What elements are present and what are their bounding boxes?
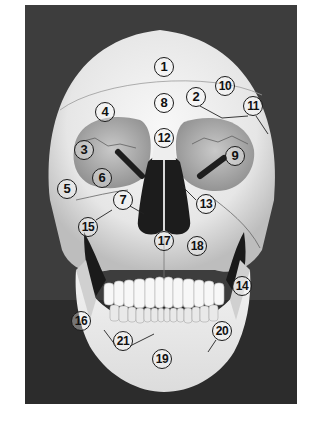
label-2: 2 (186, 87, 206, 107)
label-4: 4 (95, 102, 115, 122)
label-14: 14 (232, 276, 252, 296)
label-15: 15 (78, 217, 98, 237)
label-3: 3 (74, 140, 94, 160)
label-21: 21 (113, 331, 133, 351)
label-layer: 1 2 3 4 5 6 7 8 9 10 11 12 13 14 15 16 1… (0, 0, 310, 427)
label-13: 13 (196, 194, 216, 214)
label-10: 10 (215, 76, 235, 96)
label-20: 20 (212, 321, 232, 341)
label-8: 8 (154, 93, 174, 113)
label-7: 7 (113, 190, 133, 210)
label-17: 17 (154, 231, 174, 251)
label-1: 1 (154, 57, 174, 77)
label-5: 5 (57, 179, 77, 199)
label-12: 12 (154, 128, 174, 148)
label-6: 6 (92, 168, 112, 188)
label-11: 11 (243, 96, 263, 116)
label-9: 9 (225, 146, 245, 166)
label-18: 18 (187, 236, 207, 256)
label-19: 19 (152, 349, 172, 369)
label-16: 16 (71, 311, 91, 331)
